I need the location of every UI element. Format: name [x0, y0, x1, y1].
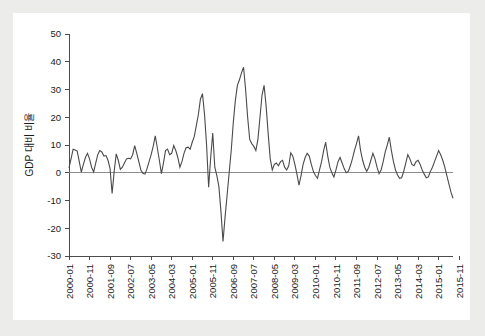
x-tick-label: 2015-01	[433, 264, 444, 299]
x-tick-label: 2000-11	[84, 264, 95, 298]
x-tick-label: 2002-07	[125, 264, 136, 299]
y-tick-labels: -30-20-1001020304050	[47, 28, 61, 261]
screenshot-root: -30-20-1001020304050 2000-012000-112001-…	[0, 0, 485, 336]
x-tick-label: 2011-09	[351, 264, 362, 298]
x-tick-label: 2015-11	[454, 264, 465, 298]
x-tick-label: 2005-11	[207, 264, 218, 298]
x-tick-label: 2000-01	[64, 264, 75, 299]
x-tick-group	[69, 256, 470, 260]
y-tick-group	[65, 34, 69, 256]
y-tick-label: 20	[50, 112, 61, 123]
x-tick-label: 2005-01	[187, 264, 198, 299]
y-tick-label: -30	[47, 250, 61, 261]
y-axis-title: GDP 대비 비율	[24, 113, 35, 176]
x-tick-label: 2003-05	[146, 264, 157, 299]
y-tick-label: -20	[47, 223, 61, 234]
x-tick-label: 2009-03	[289, 264, 300, 299]
y-tick-label: 10	[50, 139, 61, 150]
y-tick-label: 30	[50, 84, 61, 95]
chart-card: -30-20-1001020304050 2000-012000-112001-…	[13, 13, 470, 320]
y-tick-label: 0	[56, 167, 61, 178]
y-tick-label: -10	[47, 195, 61, 206]
y-tick-label: 40	[50, 56, 61, 67]
x-tick-label: 2007-07	[248, 264, 259, 299]
gdp-ratio-line-chart: -30-20-1001020304050 2000-012000-112001-…	[13, 13, 470, 320]
x-tick-label: 2014-03	[413, 264, 424, 299]
x-tick-label: 2012-07	[372, 264, 383, 299]
x-tick-label: 2013-05	[392, 264, 403, 299]
x-tick-label: 2006-09	[228, 264, 239, 299]
y-tick-label: 50	[50, 28, 61, 39]
x-tick-label: 2010-01	[310, 264, 321, 299]
chart-svg: -30-20-1001020304050 2000-012000-112001-…	[13, 13, 470, 320]
x-tick-label: 2008-05	[269, 264, 280, 299]
x-tick-label: 2001-09	[105, 264, 116, 299]
plot-area	[65, 34, 470, 260]
x-tick-label: 2004-03	[166, 264, 177, 299]
x-tick-labels: 2000-012000-112001-092002-072003-052004-…	[64, 264, 470, 299]
x-tick-label: 2010-11	[331, 264, 342, 298]
series-line-gdp-ratio	[69, 67, 453, 241]
